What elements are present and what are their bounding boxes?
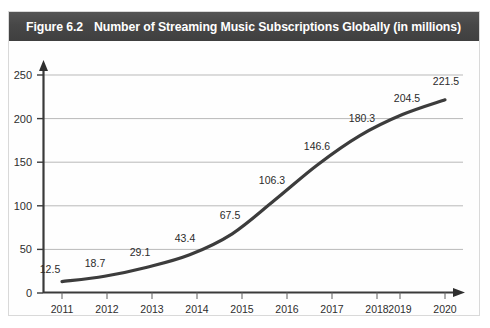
x-tick-label: 2013 (132, 303, 172, 315)
x-tick-label: 2020 (425, 303, 465, 315)
data-point-label: 180.3 (340, 112, 384, 124)
figure-container: Figure 6.2Number of Streaming Music Subs… (0, 0, 490, 328)
data-point-label: 12.5 (28, 263, 72, 275)
data-point-label: 29.1 (118, 246, 162, 258)
x-tick-label: 2011 (42, 303, 82, 315)
y-tick-label: 150 (0, 156, 32, 168)
x-tick-label: 2015 (222, 303, 262, 315)
y-tick-label: 50 (0, 243, 32, 255)
data-point-label: 146.6 (295, 140, 339, 152)
y-tick-label: 250 (0, 69, 32, 81)
data-point-label: 221.5 (424, 75, 468, 87)
y-tick-label: 0 (0, 287, 32, 299)
x-tick-label: 2016 (267, 303, 307, 315)
data-point-label: 43.4 (163, 232, 207, 244)
data-point-label: 67.5 (208, 209, 252, 221)
x-tick-label: 2012 (87, 303, 127, 315)
line-chart-plot (0, 0, 490, 328)
y-axis (37, 60, 48, 293)
data-point-label: 106.3 (250, 174, 294, 186)
data-point-label: 204.5 (385, 92, 429, 104)
x-tick-label: 2019 (380, 303, 420, 315)
y-tick-label: 200 (0, 113, 32, 125)
x-tick-label: 2017 (312, 303, 352, 315)
data-point-label: 18.7 (73, 257, 117, 269)
x-axis (43, 288, 465, 299)
y-tick-label: 100 (0, 200, 32, 212)
x-tick-label: 2014 (177, 303, 217, 315)
